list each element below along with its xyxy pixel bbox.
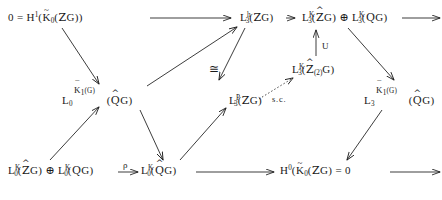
n5-G: G <box>250 94 258 106</box>
n9-close-paren: ) <box>173 164 177 176</box>
hat-accent-icon: ^ <box>306 58 314 67</box>
n6-G: G <box>322 63 330 75</box>
n9-G: G <box>164 164 172 176</box>
n3-oplus-icon: ⊕ <box>339 11 349 23</box>
n4-close-paren: ) <box>128 94 132 106</box>
n7-close-paren: ) <box>430 94 434 106</box>
n4-Kbar: ¯K <box>74 86 81 95</box>
arrow-label-sc: s.c. <box>272 94 287 104</box>
n5-ring-Z: Z <box>242 94 250 107</box>
n7-L-sub: 3 <box>371 100 375 108</box>
n6-ring-Zhat: ^Z <box>306 64 314 75</box>
n3-ring2-Q: Q <box>366 11 375 24</box>
n1-zero: 0 <box>8 11 14 23</box>
n7-ring-Qhat: ^Q <box>413 95 422 106</box>
n3-close-paren-2: ) <box>384 11 388 23</box>
node-l3k-zhat2g: LK3(^Z(2)G) <box>292 64 335 75</box>
n10-K-tilde: ~K <box>296 165 304 176</box>
n1-G: G <box>66 11 74 23</box>
n2-G: G <box>261 11 269 23</box>
hat-accent-icon: ^ <box>316 6 324 15</box>
hat-accent-icon: ^ <box>156 159 164 168</box>
tilde-accent-icon: ~ <box>44 6 49 15</box>
n5-close-paren: ) <box>258 94 262 106</box>
n9-ring-Qhat: ^Q <box>155 165 164 176</box>
n6-close-paren: ) <box>331 63 335 75</box>
n4-L-sub: 0 <box>69 100 73 108</box>
n10-ring-Z: Z <box>312 164 320 177</box>
n8-G2: G <box>81 164 89 176</box>
n8-ring2-Q: Q <box>72 164 81 177</box>
node-l3h-zg: Lh3(ZG) <box>240 12 274 23</box>
arrow-label-iso: ≅ <box>209 62 219 77</box>
node-l3p-zg: LP3(ZG) <box>229 95 262 106</box>
n7-sup-close: ) <box>395 87 398 95</box>
n1-H: H <box>26 11 34 23</box>
edge-n4-to-n9 <box>140 110 163 160</box>
n10-G: G <box>320 164 328 176</box>
arrow-label-rho: ρ <box>123 160 128 170</box>
hat-accent-icon: ^ <box>414 89 422 98</box>
n2-close-paren: ) <box>270 11 274 23</box>
n4-sup-close: ) <box>93 87 96 95</box>
n8-oplus-icon: ⊕ <box>45 164 55 176</box>
node-l3k-zhatg-sum-l3k-qg: LK3(^ZG) ⊕ LK3(QG) <box>302 12 388 23</box>
n3-G1: G <box>324 11 332 23</box>
n10-equals: = <box>335 164 342 176</box>
n10-close-paren: ) <box>328 164 332 176</box>
n1-K-tilde: ~K <box>42 12 50 23</box>
bar-accent-icon: ¯ <box>377 81 381 89</box>
edge-n3-to-n7 <box>348 28 394 80</box>
n4-L-superscript-group: ¯K1(G) <box>74 86 95 95</box>
node-l3-k1bar-qhatg: L3¯K1(G)(^QG) <box>364 95 435 106</box>
n8-ring1-Zhat: ^Z <box>22 165 30 176</box>
hat-accent-icon: ^ <box>112 89 120 98</box>
n4-ring-Qhat: ^Q <box>111 95 120 106</box>
commutative-diagram: 0 = H1(~K0(ZG)) Lh3(ZG) LK3(^ZG) ⊕ LK3(Q… <box>0 0 442 200</box>
n4-L: L <box>62 94 69 106</box>
edge-n9-to-n5 <box>180 108 226 160</box>
bar-accent-icon: ¯ <box>75 81 79 89</box>
node-l0k-qhatg: LK0(^QG) <box>141 165 177 176</box>
n3-close-paren-1: ) <box>332 11 336 23</box>
n7-Kbar: ¯K <box>376 86 383 95</box>
hat-accent-icon: ^ <box>22 159 30 168</box>
arrow-label-union: U <box>322 41 329 51</box>
node-h1-k0-zg: 0 = H1(~K0(ZG)) <box>8 12 83 23</box>
n7-L-superscript-group: ¯K1(G) <box>376 86 397 95</box>
n1-close-parens: )) <box>75 11 83 23</box>
n7-L: L <box>364 94 371 106</box>
edge-n1-to-n4 <box>62 28 99 84</box>
tilde-accent-icon: ~ <box>298 159 303 168</box>
n8-close-paren-1: ) <box>38 164 42 176</box>
edge-n4-to-n2 <box>147 27 237 86</box>
n3-G2: G <box>375 11 383 23</box>
n8-close-paren-2: ) <box>90 164 94 176</box>
n8-G1: G <box>30 164 38 176</box>
n10-zero: 0 <box>345 164 351 176</box>
node-l0-k1bar-qhatg: L0¯K1(G)(^QG) <box>62 95 133 106</box>
n10-H: H <box>280 164 288 176</box>
edge-n7-to-n10 <box>347 110 382 160</box>
node-l0k-zhatg-sum-l0k-qg: LK0(^ZG) ⊕ LK0(QG) <box>8 165 94 176</box>
n1-equals: = <box>17 11 24 23</box>
node-h0-k0-zg-zero: H0(~K0(ZG) = 0 <box>280 165 351 176</box>
n3-ring1-Zhat: ^Z <box>316 12 324 23</box>
edge-n8-to-n4 <box>50 107 99 160</box>
